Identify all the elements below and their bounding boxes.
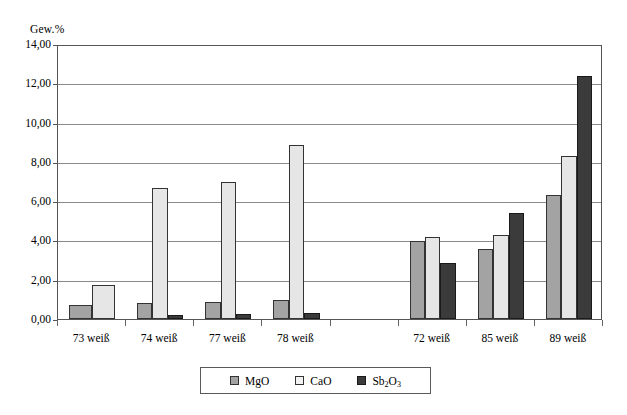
y-axis-tick-mark [53,281,58,282]
bar-cao [92,285,115,319]
y-axis-tick-label: 4,00 [7,236,51,248]
x-axis-tick-mark [466,320,467,326]
bar-cao [152,188,167,319]
bar-mgo [410,241,425,319]
gridline [58,163,601,164]
bar-cao [561,156,576,319]
y-axis-tick-mark [53,241,58,242]
plot-area [57,45,602,320]
x-axis-category-label: 77 weiß [209,332,246,344]
x-axis-category-label: 89 weiß [550,332,587,344]
legend-swatch-icon [295,376,304,385]
legend-item: MgO [230,375,269,387]
x-axis-tick-mark [57,320,58,326]
bar-cao [493,235,508,319]
bar-mgo [478,249,493,319]
gridline [58,84,601,85]
bar-mgo [273,300,288,319]
bar-cao [425,237,440,320]
legend-label: CaO [310,375,331,387]
bar-sb2o3 [304,313,319,319]
y-axis-tick-label: 10,00 [7,118,51,130]
bar-sb2o3 [577,76,592,319]
legend-label: Sb2O3 [372,375,400,387]
x-axis-tick-mark [261,320,262,326]
bar-mgo [137,303,152,319]
x-axis-category-label: 72 weiß [413,332,450,344]
gridline [58,45,601,46]
bar-cao [221,182,236,320]
y-axis-tick-label: 12,00 [7,79,51,91]
x-axis-tick-mark [398,320,399,326]
x-axis-category-label: 74 weiß [141,332,178,344]
bar-sb2o3 [236,314,251,319]
y-axis-tick-label: 8,00 [7,157,51,169]
y-axis-tick-label: 2,00 [7,275,51,287]
bar-mgo [69,305,92,319]
legend-swatch-icon [230,376,239,385]
bar-chart: Gew.% 0,002,004,006,008,0010,0012,0014,0… [0,0,627,415]
legend: MgOCaOSb2O3 [200,367,431,394]
y-axis-tick-label: 0,00 [7,314,51,326]
x-axis-tick-mark [602,320,603,326]
bar-sb2o3 [168,315,183,319]
y-axis-tick-mark [53,202,58,203]
bar-mgo [546,195,561,319]
gridline [58,124,601,125]
bar-sb2o3 [509,213,524,319]
x-axis-category-label: 78 weiß [277,332,314,344]
y-axis-tick-label: 14,00 [7,39,51,51]
x-axis-tick-mark [193,320,194,326]
x-axis-tick-mark [330,320,331,326]
bar-mgo [205,302,220,319]
legend-item: CaO [295,375,331,387]
bar-sb2o3 [440,263,455,319]
x-axis-tick-mark [534,320,535,326]
x-axis-category-label: 73 weiß [73,332,110,344]
bar-cao [289,145,304,319]
legend-label: MgO [245,375,269,387]
legend-item: Sb2O3 [357,375,400,387]
gridline [58,202,601,203]
y-axis-tick-label: 6,00 [7,196,51,208]
y-axis-tick-mark [53,163,58,164]
x-axis-category-label: 85 weiß [481,332,518,344]
legend-swatch-icon [357,376,366,385]
x-axis-tick-mark [125,320,126,326]
y-axis-tick-mark [53,124,58,125]
y-axis-tick-mark [53,45,58,46]
y-axis-title: Gew.% [30,23,64,35]
y-axis-tick-mark [53,84,58,85]
x-axis: 73 weiß74 weiß77 weiß78 weiß72 weiß85 we… [57,320,602,360]
